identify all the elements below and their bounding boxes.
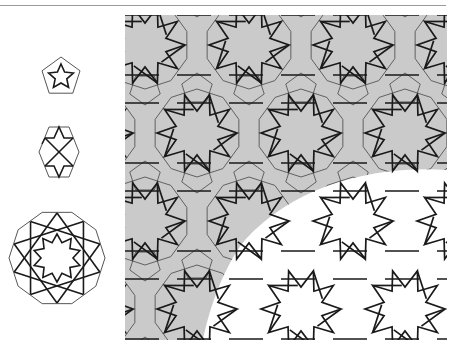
pattern-panel	[125, 15, 447, 340]
star-pattern-graphic	[125, 15, 447, 340]
pentagon-tile-icon	[36, 52, 86, 102]
decagon-tile	[5, 206, 109, 310]
hexagon-tile	[37, 124, 81, 180]
hexagon-tile-icon	[37, 124, 81, 180]
decagon-tile-icon	[5, 206, 109, 310]
pentagon-tile	[36, 52, 86, 102]
top-rule	[0, 5, 446, 6]
